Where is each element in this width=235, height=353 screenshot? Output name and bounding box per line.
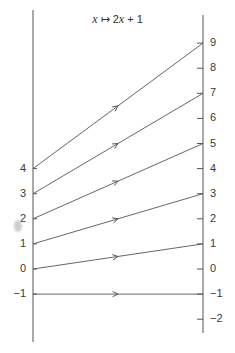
scan-smudge (14, 220, 22, 232)
mapping-canvas (0, 0, 235, 353)
right-axis-label: 4 (210, 163, 234, 174)
right-axis-label: 2 (210, 213, 234, 224)
right-axis-label: 6 (210, 112, 234, 123)
right-axis-label: 8 (210, 62, 234, 73)
right-axis-label: 0 (210, 263, 234, 274)
right-axis-label: 7 (210, 87, 234, 98)
left-axis-label: 3 (2, 188, 26, 199)
right-axis-label: −1 (210, 288, 234, 299)
right-axis-label: −2 (210, 313, 234, 324)
left-axis-label: 0 (2, 263, 26, 274)
right-axis-label: 9 (210, 37, 234, 48)
left-axis-label: −1 (2, 288, 26, 299)
left-axis-label: 1 (2, 238, 26, 249)
left-axis-label: 4 (2, 163, 26, 174)
right-axis-label: 5 (210, 138, 234, 149)
right-axis-label: 3 (210, 188, 234, 199)
right-axis-label: 1 (210, 238, 234, 249)
